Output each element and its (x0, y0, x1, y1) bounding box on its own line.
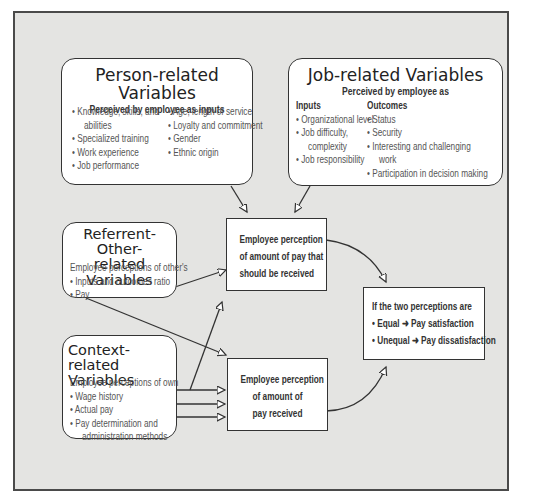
received-line-1: Employee perception (240, 371, 314, 388)
list-item: • Specialized training (72, 132, 159, 146)
list-item: work (367, 153, 488, 167)
person-title: Person-related Variables (62, 67, 252, 103)
job-title: Job-related Variables (289, 67, 502, 85)
outcome-unequal: • Unequal ➜ Pay dissatisfaction (372, 332, 456, 349)
referent-intro: Employee perceptions of other's (70, 261, 188, 275)
list-item: • Loyalty and commitment (168, 119, 263, 133)
should-line-1: Employee perception (239, 231, 313, 248)
received-line-2: of amount of (240, 388, 314, 405)
job-related-box: Job-related Variables Perceived by emplo… (288, 58, 503, 186)
list-item: • Ethnic origin (168, 146, 263, 160)
list-item: • Pay (70, 288, 188, 302)
list-item: • Interesting and challenging (367, 140, 488, 154)
list-item: • Gender (168, 132, 263, 146)
list-item: abilities (72, 119, 159, 133)
outcome-header: If the two perceptions are (372, 298, 456, 315)
list-item: • Wage history (70, 390, 178, 404)
list-item: • Job performance (72, 159, 159, 173)
context-list: Employee perceptions of own • Wage histo… (70, 376, 214, 444)
list-item: • Security (367, 126, 488, 140)
job-subtitle: Perceived by employee as (312, 85, 478, 97)
person-related-box: Person-related Variables Perceived by em… (61, 58, 253, 185)
list-item: • Actual pay (70, 403, 178, 417)
context-intro: Employee perceptions of own (70, 376, 178, 390)
list-item: • Status (367, 113, 488, 127)
list-item: • Participation in decision making (367, 167, 488, 181)
list-item: complexity (296, 140, 374, 154)
should-line-3: should be received (239, 265, 313, 282)
perception-received-box: Employee perception of amount of pay rec… (227, 358, 328, 431)
referent-title-1: Referrent-Other- (63, 227, 176, 257)
list-item: • Job difficulty, (296, 126, 374, 140)
perception-should-receive-box: Employee perception of amount of pay tha… (226, 218, 327, 291)
should-line-2: of amount of pay that (239, 248, 313, 265)
outcome-box: If the two perceptions are • Equal ➜ Pay… (363, 287, 485, 360)
list-item: • Inputs and outcomes ratio (70, 275, 188, 289)
referent-list: Employee perceptions of other's • Inputs… (70, 261, 227, 302)
context-title-1: Context-related (63, 343, 176, 373)
person-col2: • Age, length of service • Loyalty and c… (168, 105, 294, 159)
outcome-equal: • Equal ➜ Pay satisfaction (372, 315, 456, 332)
job-outcomes: Outcomes • Status • Security • Interesti… (367, 99, 528, 180)
inputs-header: Inputs (296, 99, 374, 113)
list-item: administration methods (70, 430, 178, 444)
list-item: • Pay determination and (70, 417, 178, 431)
received-line-3: pay received (240, 405, 314, 422)
context-related-box: Context-related Variables Employee perce… (62, 335, 177, 439)
list-item: • Age, length of service (168, 105, 263, 119)
list-item: • Knowledge, skills, and (72, 105, 159, 119)
outcomes-header: Outcomes (367, 99, 488, 113)
list-item: • Job responsibility (296, 153, 374, 167)
referent-other-box: Referrent-Other- related Variables Emplo… (62, 222, 177, 298)
list-item: • Organizational level (296, 113, 374, 127)
list-item: • Work experience (72, 146, 159, 160)
